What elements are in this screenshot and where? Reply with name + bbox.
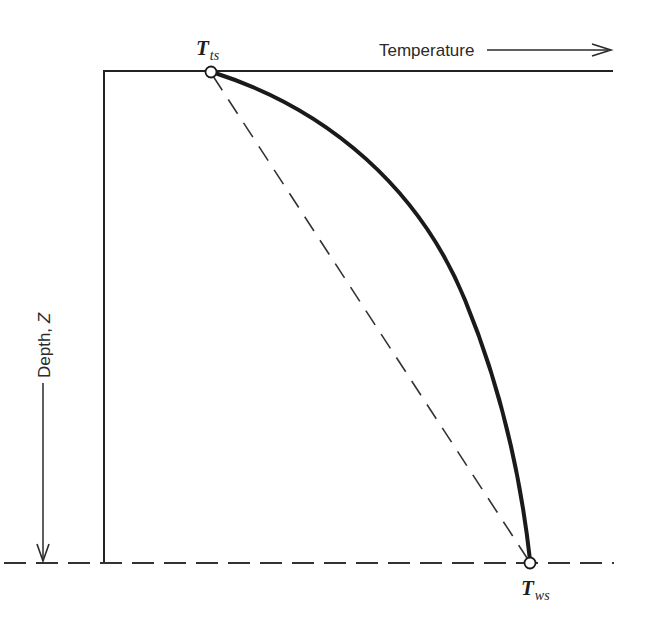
depth-axis-label: Depth, Z xyxy=(35,312,54,378)
temperature-arrow-icon xyxy=(487,44,611,56)
point-t-ws-label: Tws xyxy=(521,576,550,603)
temperature-depth-diagram: Tts Tws Temperature Depth, Z xyxy=(0,0,649,626)
depth-label-text: Depth, xyxy=(35,323,54,378)
t-ws-subscript: ws xyxy=(535,588,550,603)
point-t-ws-marker xyxy=(525,558,536,569)
actual-profile-curve xyxy=(215,73,530,560)
t-ts-symbol: T xyxy=(196,36,210,60)
point-t-ts-marker xyxy=(206,67,217,78)
t-ws-symbol: T xyxy=(521,576,535,600)
t-ts-subscript: ts xyxy=(210,48,220,63)
linear-profile-dashed-line xyxy=(213,76,527,558)
depth-arrow-icon xyxy=(37,383,49,561)
depth-label-symbol: Z xyxy=(35,312,54,324)
temperature-axis-label: Temperature xyxy=(379,41,474,60)
point-t-ts-label: Tts xyxy=(196,36,220,63)
